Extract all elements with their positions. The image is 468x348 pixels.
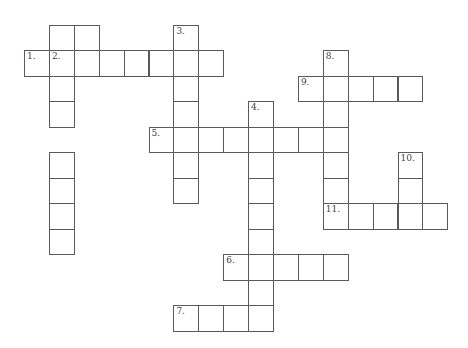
crossword-cell[interactable] — [398, 203, 424, 230]
crossword-cell[interactable] — [323, 254, 349, 281]
crossword-cell[interactable] — [49, 101, 75, 128]
crossword-cell[interactable] — [348, 76, 374, 103]
crossword-cell[interactable] — [348, 203, 374, 230]
crossword-cell[interactable] — [173, 178, 199, 205]
crossword-cell[interactable] — [273, 254, 299, 281]
crossword-cell[interactable] — [248, 152, 274, 179]
crossword-cell[interactable]: 2. — [49, 50, 75, 77]
clue-number: 11. — [326, 205, 340, 214]
crossword-cell[interactable] — [49, 25, 75, 52]
crossword-cell[interactable]: 9. — [298, 76, 324, 103]
crossword-cell[interactable] — [173, 50, 199, 77]
crossword-cell[interactable]: 11. — [323, 203, 349, 230]
crossword-cell[interactable] — [223, 305, 249, 332]
crossword-cell[interactable] — [373, 76, 399, 103]
crossword-cell[interactable] — [173, 76, 199, 103]
crossword-cell[interactable] — [223, 127, 249, 154]
clue-number: 8. — [326, 52, 335, 61]
crossword-cell[interactable] — [49, 178, 75, 205]
crossword-cell[interactable] — [248, 203, 274, 230]
crossword-cell[interactable] — [248, 178, 274, 205]
crossword-cell[interactable] — [398, 76, 424, 103]
crossword-cell[interactable]: 7. — [173, 305, 199, 332]
crossword-cell[interactable] — [74, 50, 100, 77]
crossword-cell[interactable] — [248, 254, 274, 281]
crossword-cell[interactable] — [323, 152, 349, 179]
crossword-cell[interactable] — [99, 50, 125, 77]
crossword-cell[interactable]: 5. — [149, 127, 175, 154]
clue-number: 10. — [401, 154, 415, 163]
crossword-cell[interactable] — [173, 127, 199, 154]
clue-number: 6. — [226, 256, 235, 265]
clue-number: 1. — [27, 52, 36, 61]
crossword-cell[interactable] — [173, 152, 199, 179]
crossword-cell[interactable] — [124, 50, 150, 77]
crossword-cell[interactable] — [323, 127, 349, 154]
crossword-cell[interactable] — [323, 76, 349, 103]
crossword-cell[interactable] — [49, 152, 75, 179]
crossword-cell[interactable] — [373, 203, 399, 230]
crossword-cell[interactable]: 4. — [248, 101, 274, 128]
clue-number: 5. — [152, 129, 161, 138]
crossword-cell[interactable] — [49, 76, 75, 103]
crossword-cell[interactable] — [323, 101, 349, 128]
crossword-cell[interactable] — [149, 50, 175, 77]
crossword-cell[interactable] — [198, 305, 224, 332]
crossword-cell[interactable]: 6. — [223, 254, 249, 281]
crossword-cell[interactable]: 10. — [398, 152, 424, 179]
crossword-cell[interactable] — [298, 254, 324, 281]
clue-number: 9. — [301, 78, 310, 87]
crossword-cell[interactable] — [248, 305, 274, 332]
crossword-cell[interactable] — [398, 178, 424, 205]
clue-number: 7. — [176, 307, 185, 316]
crossword-cell[interactable] — [248, 229, 274, 256]
crossword-cell[interactable] — [248, 280, 274, 307]
crossword-grid: 3.1.2.8.9.4.5.10.11.6.7. — [0, 0, 468, 348]
crossword-cell[interactable]: 3. — [173, 25, 199, 52]
crossword-cell[interactable] — [298, 127, 324, 154]
crossword-cell[interactable] — [173, 101, 199, 128]
crossword-cell[interactable] — [49, 229, 75, 256]
crossword-cell[interactable]: 1. — [24, 50, 50, 77]
crossword-cell[interactable] — [248, 127, 274, 154]
clue-number: 3. — [176, 27, 185, 36]
crossword-cell[interactable] — [422, 203, 448, 230]
crossword-cell[interactable] — [273, 127, 299, 154]
crossword-cell[interactable] — [323, 178, 349, 205]
crossword-cell[interactable] — [49, 203, 75, 230]
crossword-cell[interactable] — [198, 127, 224, 154]
clue-number: 2. — [52, 52, 61, 61]
clue-number: 4. — [251, 103, 260, 112]
crossword-cell[interactable] — [74, 25, 100, 52]
crossword-cell[interactable]: 8. — [323, 50, 349, 77]
crossword-cell[interactable] — [198, 50, 224, 77]
